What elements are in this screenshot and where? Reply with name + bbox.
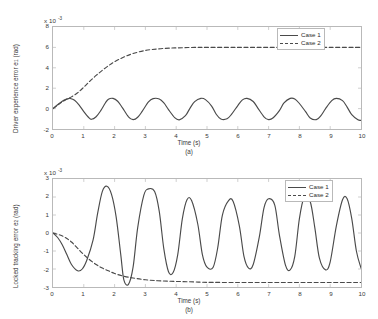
x-tick-label: 0 [42,132,62,139]
legend-a: Case 1 Case 2 [277,28,325,50]
legend-line-solid-icon [288,184,306,191]
x-axis-label-b: Time (s) [0,297,378,304]
series-line-2 [53,47,361,108]
legend-item-case-1: Case 1 [280,31,321,39]
x-tick-label: 4 [166,132,186,139]
figure-container: x 10 -3 Driver experience error e1 (rad)… [0,0,378,319]
y-axis-label-a: Driver experience error e1 (rad) [12,44,19,133]
x-tick-label: 6 [228,290,248,297]
y-tick-label: 0 [26,105,49,112]
legend-item-case-2: Case 2 [280,39,321,47]
y-tick-label: 8 [26,22,49,29]
subplot-b: x 10 -3 Locked tracking error e2 (rad) 3… [0,160,378,319]
x-tick-label: 2 [104,290,124,297]
y-tick-label: -1 [26,247,49,254]
x-axis-label-a: Time (s) [0,139,378,146]
x-tick-label: 10 [352,132,372,139]
series-line-1 [53,98,361,120]
x-tick-label: 3 [135,132,155,139]
y-tick-label: 1 [26,211,49,218]
x-tick-label: 5 [197,290,217,297]
legend-item-case-2: Case 2 [288,191,329,199]
legend-label-case-2: Case 2 [309,191,329,199]
x-tick-label: 1 [73,132,93,139]
subplot-caption-a: (a) [0,148,378,155]
x-tick-label: 9 [321,290,341,297]
y-tick-label: 0 [26,229,49,236]
x-tick-label: 10 [352,290,372,297]
x-tick-label: 6 [228,132,248,139]
legend-line-dashed-icon [288,192,306,199]
legend-label-case-2: Case 2 [301,39,321,47]
x-tick-label: 1 [73,290,93,297]
x-tick-label: 8 [290,290,310,297]
x-tick-label: 8 [290,132,310,139]
x-tick-label: 0 [42,290,62,297]
legend-item-case-1: Case 1 [288,183,329,191]
subplot-caption-b: (b) [0,306,378,313]
y-tick-label: 3 [26,174,49,181]
legend-label-case-1: Case 1 [301,31,321,39]
y-tick-label: 2 [26,84,49,91]
y-tick-label: 6 [26,43,49,50]
y-tick-label: 2 [26,192,49,199]
x-tick-label: 9 [321,132,341,139]
y-axis-label-b: Locked tracking error e2 (rad) [12,204,19,288]
subplot-a: x 10 -3 Driver experience error e1 (rad)… [0,0,378,159]
x-tick-label: 4 [166,290,186,297]
legend-line-dashed-icon [280,40,298,47]
legend-label-case-1: Case 1 [309,183,329,191]
x-tick-label: 5 [197,132,217,139]
y-tick-label: 4 [26,64,49,71]
x-tick-label: 3 [135,290,155,297]
series-line-2 [53,233,361,283]
x-tick-label: 7 [259,290,279,297]
legend-line-solid-icon [280,32,298,39]
x-tick-label: 2 [104,132,124,139]
y-tick-label: -2 [26,266,49,273]
x-tick-label: 7 [259,132,279,139]
legend-b: Case 1 Case 2 [285,180,333,202]
